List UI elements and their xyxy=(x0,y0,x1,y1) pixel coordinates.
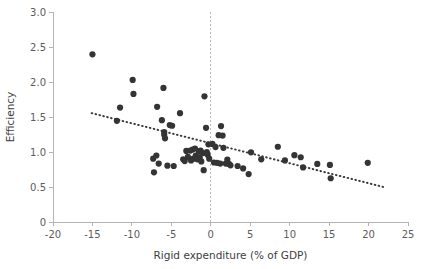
data-point xyxy=(365,160,371,166)
data-point xyxy=(314,161,320,167)
data-point xyxy=(220,145,226,151)
x-tick-label: 15 xyxy=(323,229,336,240)
data-point xyxy=(153,152,159,158)
x-tick-label: 10 xyxy=(283,229,296,240)
trend-line-group xyxy=(92,113,384,187)
data-point xyxy=(89,51,95,57)
x-tick-label: 25 xyxy=(402,229,415,240)
data-point xyxy=(246,171,252,177)
data-point xyxy=(159,117,165,123)
x-tick-label: -15 xyxy=(84,229,100,240)
data-point xyxy=(217,160,223,166)
data-point xyxy=(198,158,204,164)
data-points-group xyxy=(89,51,371,181)
y-tick-label: 0 xyxy=(40,217,46,228)
data-point xyxy=(275,144,281,150)
data-point xyxy=(151,169,157,175)
data-point xyxy=(227,162,233,168)
data-point xyxy=(164,163,170,169)
y-tick-label: 2.0 xyxy=(30,77,46,88)
x-axis-title: Rigid expenditure (% of GDP) xyxy=(154,249,308,261)
y-tick-label: 2.5 xyxy=(30,42,46,53)
data-point xyxy=(328,175,334,181)
x-tick-label: -5 xyxy=(166,229,176,240)
data-point xyxy=(177,110,183,116)
data-point xyxy=(218,123,224,129)
data-point xyxy=(130,91,136,97)
axes-group xyxy=(49,12,408,226)
data-point xyxy=(117,104,123,110)
plot-canvas: 00.51.01.52.02.53.0-20-15-10-50510152025… xyxy=(0,0,421,269)
y-tick-label: 3.0 xyxy=(30,7,46,18)
fitted-trend xyxy=(92,113,384,187)
data-point xyxy=(248,149,254,155)
data-point xyxy=(160,85,166,91)
data-point xyxy=(212,144,218,150)
data-point xyxy=(220,132,226,138)
data-point xyxy=(201,93,207,99)
data-point xyxy=(130,77,136,83)
data-point xyxy=(201,167,207,173)
data-point xyxy=(162,135,168,141)
y-axis-title: Efficiency xyxy=(4,92,16,143)
data-point xyxy=(169,123,175,129)
data-point xyxy=(282,157,288,163)
data-point xyxy=(203,125,209,131)
data-point xyxy=(171,163,177,169)
x-tick-label: 5 xyxy=(247,229,253,240)
data-point xyxy=(156,160,162,166)
data-point xyxy=(291,152,297,158)
axis-labels-group: 00.51.01.52.02.53.0-20-15-10-50510152025… xyxy=(4,7,414,262)
y-tick-label: 0.5 xyxy=(30,182,46,193)
y-tick-label: 1.0 xyxy=(30,147,46,158)
x-tick-label: -10 xyxy=(124,229,140,240)
data-point xyxy=(258,156,264,162)
scatter-chart: 00.51.01.52.02.53.0-20-15-10-50510152025… xyxy=(0,0,421,269)
x-tick-label: 0 xyxy=(208,229,214,240)
data-point xyxy=(154,104,160,110)
data-point xyxy=(235,163,241,169)
x-tick-label: 20 xyxy=(362,229,375,240)
data-point xyxy=(298,154,304,160)
data-point xyxy=(327,162,333,168)
data-point xyxy=(300,164,306,170)
data-point xyxy=(240,165,246,171)
y-tick-label: 1.5 xyxy=(30,112,46,123)
x-tick-label: -20 xyxy=(45,229,61,240)
data-point xyxy=(114,118,120,124)
